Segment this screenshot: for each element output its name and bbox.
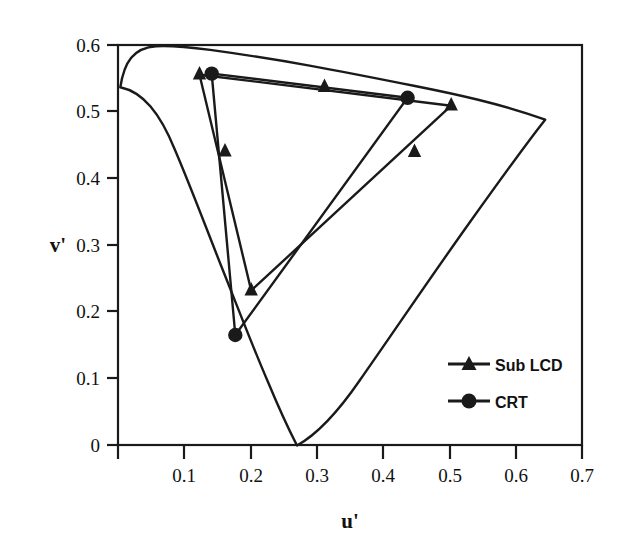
x-tick-label-0.3: 0.3 [305,465,329,486]
crt-red-vertex-marker [400,91,414,105]
spectral-locus-curve [120,46,545,446]
x-tick-label-0.4: 0.4 [371,465,395,486]
sub-lcd-edge-marker-top [318,79,331,93]
y-tick-label-0.1: 0.1 [76,368,100,389]
y-tick-label-0.6: 0.6 [76,35,100,56]
sub-lcd-red-vertex-marker [445,97,458,111]
sub-lcd-blue-vertex-marker [245,282,258,296]
chart-legend: Sub LCD CRT [448,356,563,411]
legend-label-sub-lcd: Sub LCD [495,357,563,374]
y-tick-label-0.4: 0.4 [76,168,100,189]
x-tick-label-0.7: 0.7 [570,465,594,486]
chromaticity-diagram-figure: 0.6 0.5 0.4 0.3 0.2 0.1 0 0.1 0.2 0.3 0.… [0,0,626,548]
legend-label-crt: CRT [495,394,528,411]
x-tick-label-0.2: 0.2 [239,465,263,486]
sub-lcd-edge-marker-left [218,143,231,157]
sub-lcd-gamut-triangle [200,75,452,291]
crt-green-vertex-marker [205,66,219,80]
crt-blue-vertex-marker [228,328,242,342]
legend-entry-sub-lcd[interactable]: Sub LCD [448,356,563,374]
y-axis-ticks [107,45,118,445]
x-axis-tick-labels: 0.1 0.2 0.3 0.4 0.5 0.6 0.7 [172,465,594,486]
y-axis-tick-labels: 0.6 0.5 0.4 0.3 0.2 0.1 0 [76,35,100,456]
plot-frame [118,45,582,445]
chart-svg: 0.6 0.5 0.4 0.3 0.2 0.1 0 0.1 0.2 0.3 0.… [0,0,626,548]
sub-lcd-edge-markers [218,79,421,158]
y-tick-label-0.3: 0.3 [76,235,100,256]
crt-gamut-triangle [212,74,408,335]
sub-lcd-green-vertex-marker [193,66,206,80]
y-tick-label-0.2: 0.2 [76,301,100,322]
x-tick-label-0.5: 0.5 [438,465,462,486]
y-tick-label-0.5: 0.5 [76,101,100,122]
circle-icon [462,394,477,409]
x-axis-title: u' [341,509,359,533]
legend-entry-crt[interactable]: CRT [448,394,528,412]
y-axis-title: v' [50,233,66,257]
x-tick-label-0.6: 0.6 [504,465,528,486]
x-axis-ticks [118,445,582,459]
plot-border [118,45,582,445]
y-tick-label-0: 0 [91,435,101,456]
x-tick-label-0.1: 0.1 [172,465,196,486]
